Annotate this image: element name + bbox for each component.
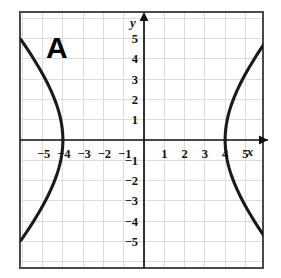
y-tick-neg2: −2 [125, 174, 138, 188]
x-tick-neg4: −4 [57, 147, 71, 161]
y-tick-neg3: −3 [125, 194, 138, 208]
y-tick-pos1: 1 [132, 113, 138, 127]
x-tick-pos2: 2 [181, 147, 187, 161]
y-tick-neg5: −5 [125, 235, 138, 249]
y-axis-label: y [128, 15, 136, 30]
figure-label-a: A [46, 31, 68, 64]
coordinate-plane: −5−4−3−2−112345 54321−1−2−3−4−5 x y A [0, 0, 281, 278]
y-tick-pos4: 4 [132, 52, 139, 66]
y-tick-neg4: −4 [125, 215, 139, 229]
y-tick-pos2: 2 [132, 93, 138, 107]
x-tick-neg5: −5 [37, 147, 50, 161]
x-tick-neg3: −3 [77, 147, 90, 161]
x-axis-label: x [246, 144, 254, 159]
graph-figure: −5−4−3−2−112345 54321−1−2−3−4−5 x y A [0, 0, 281, 278]
x-tick-pos4: 4 [222, 147, 229, 161]
x-tick-neg2: −2 [98, 147, 111, 161]
y-tick-neg1: −1 [125, 154, 138, 168]
y-tick-pos3: 3 [132, 73, 138, 87]
x-tick-pos3: 3 [202, 147, 208, 161]
x-tick-pos1: 1 [161, 147, 167, 161]
y-tick-pos5: 5 [132, 32, 138, 46]
